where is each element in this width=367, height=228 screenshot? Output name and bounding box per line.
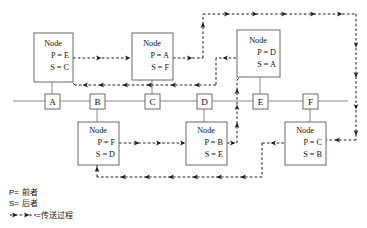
legend-successor-value: 后者 (22, 198, 38, 208)
node-b-predecessor: P = F (97, 138, 115, 147)
legend: P= 前者 S= 后者 = 传送过程 (9, 187, 73, 220)
legend-predecessor-key: P= (9, 188, 19, 197)
box-f[interactable]: F (303, 94, 318, 109)
box-c[interactable]: C (145, 94, 160, 109)
node-a[interactable]: Node P = E S = C (34, 33, 73, 82)
network-node-diagram: A B C D E F (0, 0, 367, 228)
box-c-label: C (149, 97, 155, 107)
box-a-label: A (49, 97, 56, 107)
node-f[interactable]: Node P = C S = B (285, 122, 326, 165)
node-c-predecessor: P = A (151, 51, 170, 60)
legend-flow-value: 传送过程 (41, 210, 73, 220)
box-b-label: B (94, 97, 100, 107)
node-c-title: Node (143, 39, 161, 48)
node-b-title: Node (89, 126, 107, 135)
node-e-predecessor: P = D (257, 48, 276, 57)
box-b[interactable]: B (90, 94, 105, 109)
legend-flow-arrow-icon (10, 213, 36, 218)
node-d[interactable]: Node P = B S = E (186, 122, 227, 165)
legend-predecessor-value: 前者 (22, 187, 38, 197)
box-a[interactable]: A (45, 94, 60, 109)
diagram-canvas: A B C D E F (0, 0, 367, 228)
node-e[interactable]: Node P = D S = A (237, 30, 280, 77)
node-a-successor: S = C (50, 63, 69, 72)
flow-a-to-c (73, 56, 130, 61)
box-d[interactable]: D (197, 94, 212, 109)
flow-d-to-e (227, 74, 244, 145)
flow-b-to-d (119, 141, 185, 146)
box-e[interactable]: E (253, 94, 268, 109)
node-f-title: Node (296, 126, 314, 135)
node-d-predecessor: P = B (205, 138, 224, 147)
node-e-title: Node (249, 36, 267, 45)
box-d-label: D (201, 97, 208, 107)
node-f-predecessor: P = C (304, 138, 323, 147)
node-c-successor: S = F (151, 63, 169, 72)
box-e-label: E (258, 97, 264, 107)
node-a-predecessor: P = E (51, 51, 69, 60)
node-a-title: Node (44, 39, 62, 48)
node-d-title: Node (197, 126, 215, 135)
node-e-successor: S = A (257, 60, 276, 69)
node-d-successor: S = E (205, 150, 223, 159)
node-c[interactable]: Node P = A S = F (132, 33, 173, 80)
node-b-successor: S = D (96, 150, 115, 159)
node-f-successor: S = B (303, 150, 322, 159)
legend-successor-key: S= (9, 199, 19, 208)
node-b[interactable]: Node P = F S = D (78, 122, 119, 165)
box-f-label: F (308, 97, 313, 107)
